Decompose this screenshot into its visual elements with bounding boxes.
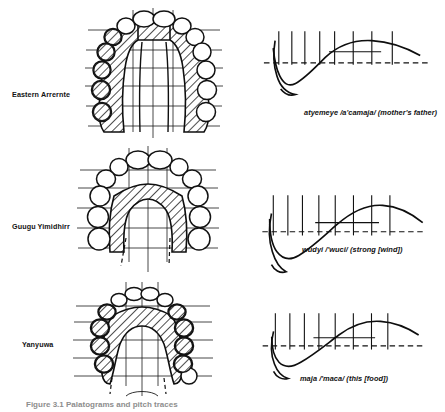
language-label-yanyuwa: Yanyuwa [22, 340, 53, 349]
transcription-guugu-yimidhirr: wudyi /'wuci/ (strong [wind]) [302, 245, 403, 254]
trace-ticks [275, 313, 387, 349]
pitch-trace-yanyuwa [258, 306, 436, 384]
transcription-eastern-arrernte: atyemeye /a'camaja/ (mother's father) [304, 108, 437, 117]
figure-row-3: Yanyuwa [0, 278, 445, 400]
figure-caption: Figure 3.1 Palatograms and pitch traces [26, 400, 178, 412]
language-label-guugu-yimidhirr: Guugu Yimidhirr [12, 222, 70, 231]
figure-root: Eastern Arrernte [0, 0, 445, 412]
pitch-trace-guugu-yimidhirr [258, 188, 438, 270]
figure-row-2: Guugu Yimidhirr [0, 140, 445, 278]
trace-ticks [279, 31, 392, 64]
figure-row-1: Eastern Arrernte [0, 0, 445, 140]
palatogram-yanyuwa [70, 282, 216, 400]
pitch-trace-eastern-arrernte [262, 22, 437, 102]
language-label-eastern-arrernte: Eastern Arrernte [12, 90, 70, 99]
palatogram-eastern-arrernte [84, 6, 224, 140]
trace-contour [272, 321, 419, 366]
central-channel [140, 42, 169, 132]
teeth-row [88, 151, 211, 250]
transcription-yanyuwa: maja /'maca/ (this [food]) [300, 374, 388, 383]
palatogram-guugu-yimidhirr [74, 146, 222, 274]
palatogram-dashed-markers [121, 238, 170, 266]
